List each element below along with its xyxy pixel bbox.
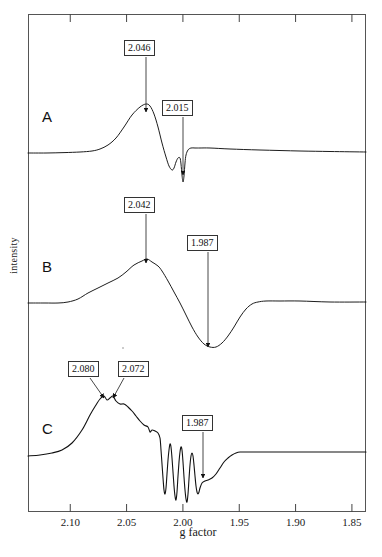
panel-letter-c: C [42,420,53,437]
panel-letter-b: B [42,258,52,275]
x-axis-ticks-top [70,14,352,22]
annotation-label-1-987: 1.987 [182,415,213,431]
x-tick-label: 2.00 [163,516,203,528]
plot-canvas [0,0,382,557]
plot-frame [29,15,366,512]
annotation-label-2-072: 2.072 [118,361,149,377]
x-tick-label: 2.05 [107,516,147,528]
epr-figure: intensity g factor 2.102.052.001.951.901… [0,0,382,557]
spectrum-curve-b [28,259,366,347]
annotation-arrow-2-080 [90,378,104,398]
annotation-label-2-046: 2.046 [124,40,155,56]
scan-artifact-speck [122,347,124,349]
annotation-arrow-2-072 [113,378,124,398]
y-axis-label: intensity [8,221,19,291]
annotation-label-2-015: 2.015 [162,100,193,116]
spectrum-curve-c [28,396,366,502]
spectrum-curve-a [28,104,366,182]
x-tick-label: 1.90 [276,516,316,528]
x-tick-label: 1.85 [332,516,372,528]
annotation-label-2-042: 2.042 [124,197,155,213]
x-axis-ticks-bottom [70,504,352,512]
x-tick-label: 2.10 [50,516,90,528]
annotation-label-2-080: 2.080 [68,361,99,377]
panel-letter-a: A [42,108,52,125]
x-tick-label: 1.95 [219,516,259,528]
annotation-label-1-987: 1.987 [187,235,218,251]
spectra-curves [28,104,366,502]
